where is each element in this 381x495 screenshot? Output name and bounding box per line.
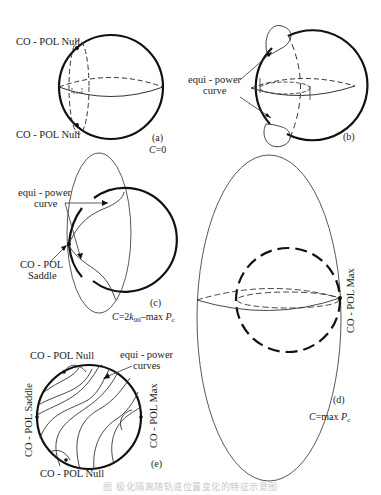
equator-front bbox=[251, 86, 355, 96]
panel-d-label: (d) bbox=[333, 394, 345, 406]
null-point-bottom bbox=[64, 458, 68, 462]
panel-e-label: (e) bbox=[151, 458, 162, 470]
poincare-sphere-figure: CO - POL Null CO - POL Null (a) C=0 equi… bbox=[0, 0, 381, 495]
dashed-sphere bbox=[236, 248, 340, 352]
max-point bbox=[338, 296, 342, 300]
figure-caption: 图 极化隔离随轨道位置变化的特征示意图 bbox=[0, 480, 381, 493]
equator-back bbox=[197, 288, 340, 300]
equator-back bbox=[59, 78, 163, 88]
label-c-curve-1: equi - power bbox=[18, 187, 72, 198]
label-e-max: CO - POL Max bbox=[148, 383, 159, 448]
label-e-curves-2: curves bbox=[133, 360, 160, 371]
arrowhead-c-2 bbox=[77, 253, 83, 259]
null-point-top bbox=[62, 370, 66, 374]
label-c-curve-2: curve bbox=[34, 198, 58, 209]
label-a-bottom-null: CO - POL Null bbox=[16, 129, 80, 140]
panel-b-label: (b) bbox=[343, 131, 355, 143]
label-b-curve-1: equi - power bbox=[188, 74, 242, 85]
label-b-curve-2: curve bbox=[203, 85, 227, 96]
panel-c-condition: C=2k00–max Pc bbox=[112, 311, 175, 324]
inner-dashed-ellipse bbox=[260, 82, 310, 94]
panel-d: CO - POL Max (d) C=max Pc bbox=[197, 155, 356, 481]
panel-e: CO - POL Null CO - POL Null CO - POL Sad… bbox=[23, 349, 174, 479]
equi-power-curve-bottom bbox=[69, 246, 116, 300]
label-c-saddle-1: CO - POL bbox=[20, 259, 63, 270]
equi-power-loop-bottom bbox=[264, 124, 290, 147]
label-e-saddle: CO - POL Saddle bbox=[23, 383, 34, 457]
max-point bbox=[139, 415, 143, 419]
null-point-bottom bbox=[75, 123, 79, 127]
equator-front bbox=[59, 87, 163, 97]
label-a-top-null: CO - POL Null bbox=[16, 36, 80, 47]
panel-c: equi - power curve CO - POL Saddle (c) C… bbox=[18, 153, 177, 324]
panel-a-label: (a) bbox=[152, 132, 163, 144]
meridian-dashed bbox=[69, 40, 89, 134]
label-d-max: CO - POL Max bbox=[345, 268, 356, 333]
panel-d-condition: C=max Pc bbox=[309, 411, 350, 424]
sphere-outline bbox=[287, 30, 367, 140]
panel-a-condition: C=0 bbox=[149, 144, 166, 155]
sphere-outline bbox=[59, 35, 163, 139]
inner-equator bbox=[237, 292, 339, 308]
equi-power-curve-top bbox=[69, 192, 124, 244]
meridian-dashed bbox=[288, 35, 301, 138]
equator-front bbox=[197, 298, 340, 311]
saddle-point bbox=[35, 415, 39, 419]
saddle-point bbox=[67, 242, 71, 246]
label-e-top-null: CO - POL Null bbox=[30, 350, 94, 361]
label-e-bottom-null: CO - POL Null bbox=[40, 468, 104, 479]
panel-b: equi - power curve (b) bbox=[188, 25, 367, 146]
label-c-saddle-2: Saddle bbox=[28, 270, 57, 281]
tall-ellipse bbox=[197, 155, 341, 481]
arrowhead-c-1 bbox=[102, 200, 108, 206]
panel-a: CO - POL Null CO - POL Null (a) C=0 bbox=[16, 35, 166, 155]
equator-back bbox=[251, 78, 355, 88]
panel-c-label: (c) bbox=[150, 297, 161, 309]
label-e-curves-1: equi - power bbox=[120, 349, 174, 360]
thin-ellipse bbox=[67, 153, 131, 313]
